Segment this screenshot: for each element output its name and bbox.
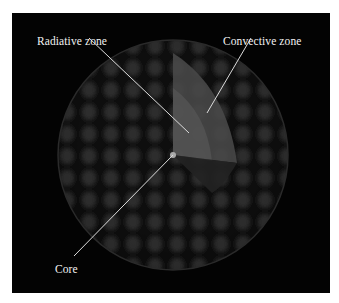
figure-panel: Radiative zone Convective zone Core	[12, 13, 330, 293]
radiative-zone-label: Radiative zone	[37, 35, 107, 47]
sun-cutaway-illustration	[12, 13, 330, 293]
convective-zone-label: Convective zone	[223, 35, 301, 47]
core-label: Core	[55, 263, 78, 275]
